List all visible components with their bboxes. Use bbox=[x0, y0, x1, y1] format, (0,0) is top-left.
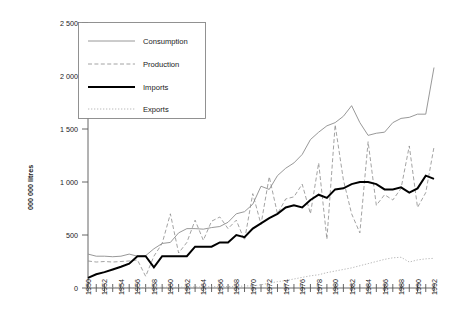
legend-label-imports: Imports bbox=[143, 83, 169, 92]
x-tick-label: 1990 bbox=[414, 279, 423, 295]
legend-label-exports: Exports bbox=[143, 105, 169, 114]
x-tick-label: 1982 bbox=[348, 279, 357, 295]
y-tick-label: 2 500 bbox=[60, 19, 78, 28]
x-tick-label: 1980 bbox=[331, 279, 340, 295]
line-chart: 05001 0001 5002 0002 500 000 000 litres … bbox=[0, 0, 458, 335]
x-tick-label: 1988 bbox=[397, 279, 406, 295]
x-tick-label: 1970 bbox=[249, 279, 258, 295]
series-line-imports bbox=[88, 176, 434, 278]
y-tick-label: 0 bbox=[74, 284, 78, 293]
y-tick-label: 500 bbox=[66, 231, 78, 240]
chart-legend: Consumption Production Imports Exports bbox=[79, 23, 206, 119]
x-axis-tick-labels: 1950195219541956195819601962196419661968… bbox=[84, 279, 439, 295]
series-line-production bbox=[88, 125, 434, 277]
chart-container: 05001 0001 5002 0002 500 000 000 litres … bbox=[0, 0, 458, 335]
legend-label-production: Production bbox=[143, 60, 179, 69]
x-tick-label: 1984 bbox=[364, 279, 373, 295]
x-tick-label: 1986 bbox=[381, 279, 390, 295]
x-tick-label: 1964 bbox=[199, 279, 208, 295]
y-axis-title: 000 000 litres bbox=[26, 165, 35, 210]
y-tick-label: 2 000 bbox=[60, 72, 78, 81]
x-tick-label: 1972 bbox=[265, 279, 274, 295]
x-tick-label: 1968 bbox=[232, 279, 241, 295]
y-tick-label: 1 500 bbox=[60, 125, 78, 134]
x-tick-label: 1974 bbox=[282, 279, 291, 295]
y-tick-label: 1 000 bbox=[60, 178, 78, 187]
x-tick-label: 1956 bbox=[133, 279, 142, 295]
x-tick-label: 1976 bbox=[298, 279, 307, 295]
x-tick-label: 1952 bbox=[100, 279, 109, 295]
x-tick-label: 1954 bbox=[117, 279, 126, 295]
x-axis: 1950195219541956195819601962196419661968… bbox=[84, 279, 439, 295]
x-tick-label: 1960 bbox=[166, 279, 175, 295]
x-tick-label: 1992 bbox=[430, 279, 439, 295]
legend-label-consumption: Consumption bbox=[143, 37, 188, 46]
x-tick-label: 1950 bbox=[84, 279, 93, 295]
x-tick-label: 1978 bbox=[315, 279, 324, 295]
